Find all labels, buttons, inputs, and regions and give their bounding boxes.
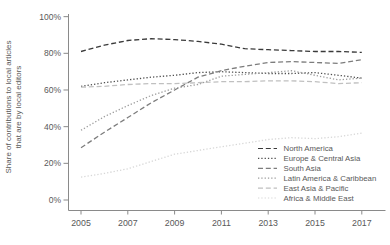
y-tick-label-100: 100% xyxy=(39,12,61,22)
x-tick-label-2005: 2005 xyxy=(71,218,91,228)
series-line-north-america xyxy=(81,39,362,53)
x-tick-label-2011: 2011 xyxy=(212,218,231,228)
series-line-east-asia-pacific xyxy=(81,81,362,87)
y-axis-title-line-2: that are by local editors xyxy=(14,66,23,149)
x-tick-label-2017: 2017 xyxy=(352,218,372,228)
y-tick-label-40: 40% xyxy=(44,122,61,132)
x-tick-label-2007: 2007 xyxy=(118,218,138,228)
x-tick-label-2013: 2013 xyxy=(258,218,278,228)
legend-label-north-america: North America xyxy=(284,144,334,153)
y-tick-label-0: 0% xyxy=(49,195,62,205)
series-line-europe-central-asia xyxy=(81,72,362,87)
x-tick-label-2009: 2009 xyxy=(165,218,185,228)
legend-label-east-asia-pacific: East Asia & Pacific xyxy=(284,184,349,193)
y-tick-label-20: 20% xyxy=(44,158,61,168)
legend-label-south-asia: South Asia xyxy=(284,164,322,173)
y-tick-label-60: 60% xyxy=(44,85,61,95)
series-line-latin-america-caribbean xyxy=(81,71,362,131)
legend-label-africa-middle-east: Africa & Middle East xyxy=(284,194,355,203)
y-tick-label-80: 80% xyxy=(44,48,61,58)
chart-figure: 0%20%40%60%80%100%2005200720092011201320… xyxy=(0,0,390,245)
line-chart: 0%20%40%60%80%100%2005200720092011201320… xyxy=(0,0,390,245)
y-axis-title-line-1: Share of contributions to local articles xyxy=(4,41,13,174)
legend-label-latin-america-caribbean: Latin America & Caribbean xyxy=(284,174,377,183)
x-tick-label-2015: 2015 xyxy=(305,218,325,228)
series-line-south-asia xyxy=(81,60,362,148)
legend-label-europe-central-asia: Europe & Central Asia xyxy=(284,154,361,163)
